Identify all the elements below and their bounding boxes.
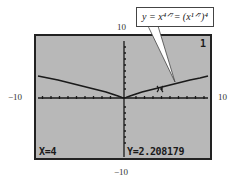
callout-pointer [0,0,238,180]
equation-callout: y = x⁴ᐟ⁷= (x¹ᐟ⁷)⁴ [136,7,214,27]
